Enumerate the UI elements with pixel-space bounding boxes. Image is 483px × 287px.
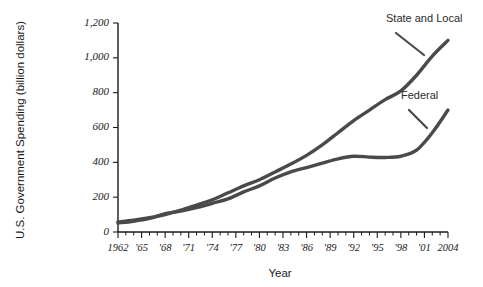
x-axis-tick-label: '65 (135, 242, 148, 253)
x-axis-tick-label: '92 (347, 242, 360, 253)
x-axis-tick-label: '89 (324, 242, 337, 253)
y-axis-title: U.S. Government Spending (billion dollar… (14, 21, 26, 239)
y-axis-title-group: U.S. Government Spending (billion dollar… (14, 21, 26, 239)
government-spending-line-chart: U.S. Government Spending (billion dollar… (0, 0, 483, 287)
x-axis-tick-label: '01 (418, 242, 431, 253)
y-axis-tick-label: 400 (93, 155, 110, 167)
y-axis-tick-label: 0 (104, 225, 110, 237)
x-axis-title: Year (268, 267, 291, 279)
y-axis-tick-label: 1,000 (84, 50, 109, 62)
x-axis-tick-label: '77 (229, 242, 242, 253)
x-axis-tick-label: '86 (300, 242, 313, 253)
chart-svg: U.S. Government Spending (billion dollar… (0, 0, 483, 287)
series-layer (118, 40, 448, 223)
x-axis-tick-label: 1962 (108, 242, 130, 253)
x-axis-tick-label: '98 (394, 242, 407, 253)
series-leader-federal (409, 110, 427, 128)
y-axis-tick-label: 1,200 (84, 16, 109, 28)
series-label-federal: Federal (401, 89, 438, 101)
x-axis-tick-label: '74 (206, 242, 219, 253)
series-label-state-and-local: State and Local (386, 12, 462, 24)
x-axis-tick-label: '83 (277, 242, 290, 253)
series-line-state-and-local (118, 40, 448, 221)
x-axis: 1962'65'68'71'74'77'80'83'86'89'92'95'98… (108, 232, 460, 253)
y-axis-tick-label: 200 (93, 190, 110, 202)
x-axis-tick-label: '95 (371, 242, 384, 253)
x-axis-title-group: Year (268, 267, 291, 279)
x-axis-tick-label: '68 (159, 242, 172, 253)
annotation-layer: State and LocalFederal (386, 12, 462, 128)
y-axis-tick-label: 600 (93, 120, 110, 132)
x-axis-tick-label: '71 (182, 242, 195, 253)
series-leader-state-and-local (396, 33, 424, 55)
y-axis-tick-label: 800 (93, 85, 110, 97)
x-axis-tick-label: '80 (253, 242, 266, 253)
y-axis: 02004006008001,0001,200 (84, 16, 118, 237)
x-axis-tick-label: 2004 (438, 242, 460, 253)
